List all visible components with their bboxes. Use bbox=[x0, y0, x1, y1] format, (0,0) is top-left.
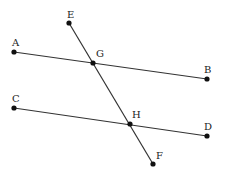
label-G: G bbox=[96, 48, 104, 59]
geometry-diagram: A B C D E F G H bbox=[0, 0, 225, 178]
point-A bbox=[11, 49, 16, 54]
point-F bbox=[150, 161, 155, 166]
segments bbox=[14, 23, 207, 164]
label-F: F bbox=[156, 150, 163, 161]
point-D bbox=[204, 133, 209, 138]
label-D: D bbox=[204, 121, 212, 132]
point-G bbox=[90, 60, 95, 65]
point-C bbox=[11, 105, 16, 110]
point-E bbox=[66, 20, 71, 25]
label-B: B bbox=[204, 64, 211, 75]
label-H: H bbox=[132, 109, 141, 120]
line-CD bbox=[14, 108, 207, 136]
line-EF bbox=[69, 23, 153, 164]
label-E: E bbox=[67, 9, 74, 20]
point-H bbox=[127, 121, 132, 126]
labels: A B C D E F G H bbox=[11, 9, 212, 161]
label-C: C bbox=[12, 93, 20, 104]
line-AB bbox=[14, 52, 207, 79]
label-A: A bbox=[11, 37, 20, 48]
point-B bbox=[204, 76, 209, 81]
